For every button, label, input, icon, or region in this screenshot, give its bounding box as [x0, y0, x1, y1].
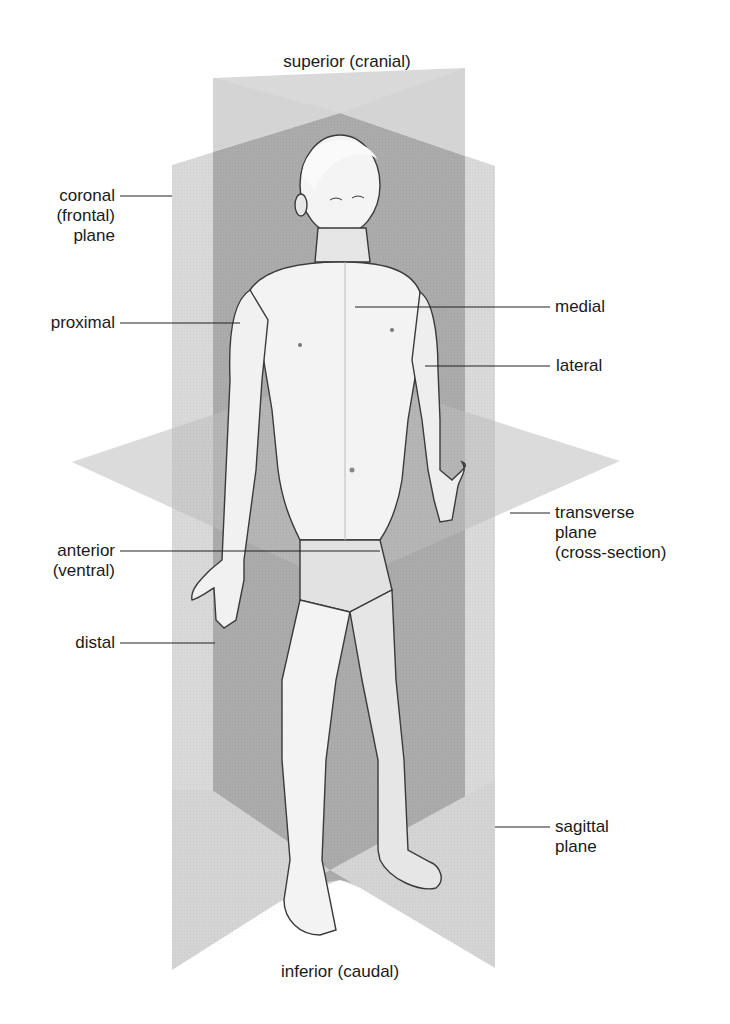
- label-coronal-plane: coronal (frontal) plane: [30, 186, 115, 246]
- label-coronal-line1: coronal: [30, 186, 115, 206]
- label-coronal-line3: plane: [30, 226, 115, 246]
- label-transverse-line2: plane: [555, 523, 666, 543]
- label-coronal-line2: (frontal): [30, 206, 115, 226]
- anatomical-planes-diagram: superior (cranial) coronal (frontal) pla…: [0, 0, 730, 1024]
- label-sagittal-plane: sagittal plane: [555, 817, 609, 857]
- label-sagittal-line2: plane: [555, 837, 609, 857]
- label-sagittal-line1: sagittal: [555, 817, 609, 837]
- label-anterior-line2: (ventral): [20, 561, 115, 581]
- label-medial: medial: [555, 297, 605, 317]
- label-superior: superior (cranial): [262, 52, 432, 72]
- label-transverse-plane: transverse plane (cross-section): [555, 503, 666, 563]
- label-anterior-line1: anterior: [20, 541, 115, 561]
- label-proximal: proximal: [20, 313, 115, 333]
- label-lateral: lateral: [556, 356, 602, 376]
- label-distal: distal: [20, 633, 115, 653]
- label-transverse-line3: (cross-section): [555, 543, 666, 563]
- label-inferior: inferior (caudal): [255, 962, 425, 982]
- label-transverse-line1: transverse: [555, 503, 666, 523]
- label-anterior: anterior (ventral): [20, 541, 115, 581]
